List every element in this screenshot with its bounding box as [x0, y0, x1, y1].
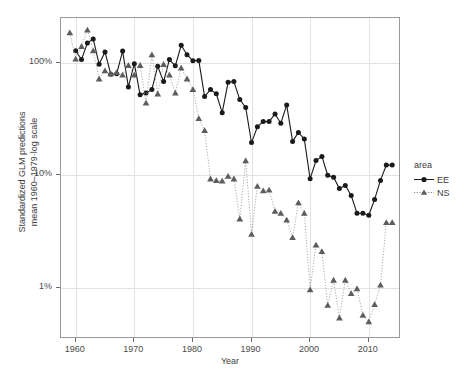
- data-point-circle: [190, 58, 195, 63]
- y-axis-title: Standardized GLM predictionsmean 1960–19…: [16, 47, 40, 297]
- y-axis-title-line2: mean 1960–1979·log scale: [29, 118, 39, 227]
- data-point-circle: [161, 79, 166, 84]
- data-point-circle: [202, 94, 207, 99]
- data-point-triangle: [119, 72, 126, 78]
- data-point-circle: [360, 211, 365, 216]
- legend-item-ee[interactable]: EE: [414, 173, 450, 186]
- data-point-triangle: [207, 176, 214, 182]
- data-point-circle: [196, 58, 201, 63]
- data-point-triangle: [301, 210, 308, 216]
- data-point-triangle: [313, 242, 320, 248]
- data-point-circle: [302, 137, 307, 142]
- legend-label-ee: EE: [437, 175, 449, 185]
- data-point-triangle: [295, 200, 302, 206]
- x-tick-mark: [192, 338, 193, 342]
- data-point-triangle: [289, 234, 296, 240]
- data-point-circle: [325, 173, 330, 178]
- data-point-triangle: [377, 282, 384, 288]
- data-point-triangle: [278, 210, 285, 216]
- data-point-triangle: [96, 76, 103, 82]
- data-point-circle: [366, 213, 371, 218]
- y-tick-mark: [56, 62, 60, 63]
- data-point-triangle: [66, 30, 73, 36]
- data-point-circle: [155, 64, 160, 69]
- data-point-triangle: [342, 277, 349, 283]
- series-line: [76, 39, 393, 215]
- data-point-triangle: [319, 248, 326, 254]
- data-point-triangle: [225, 173, 232, 179]
- data-point-triangle: [324, 302, 331, 308]
- data-point-triangle: [389, 219, 396, 225]
- data-point-triangle: [336, 315, 343, 321]
- data-point-circle: [337, 186, 342, 191]
- data-point-circle: [237, 97, 242, 102]
- data-point-triangle: [272, 208, 279, 214]
- x-tick-mark: [75, 338, 76, 342]
- data-point-triangle: [149, 52, 156, 58]
- x-tick-label: 1990: [231, 344, 271, 354]
- data-point-triangle: [190, 86, 197, 92]
- data-point-circle: [331, 175, 336, 180]
- x-tick-mark: [368, 338, 369, 342]
- data-point-circle: [319, 154, 324, 159]
- data-point-triangle: [78, 43, 85, 49]
- x-tick-mark: [309, 338, 310, 342]
- data-point-triangle: [354, 286, 361, 292]
- data-point-circle: [208, 87, 213, 92]
- series-ns: [66, 27, 395, 325]
- data-point-circle: [85, 41, 90, 46]
- data-point-triangle: [248, 231, 255, 237]
- data-point-circle: [149, 87, 154, 92]
- y-tick-mark: [56, 287, 60, 288]
- data-point-circle: [355, 211, 360, 216]
- data-point-circle: [296, 130, 301, 135]
- data-point-circle: [91, 36, 96, 41]
- data-point-circle: [243, 105, 248, 110]
- x-tick-mark: [251, 338, 252, 342]
- data-point-circle: [384, 163, 389, 168]
- data-point-circle: [314, 158, 319, 163]
- chart-figure: 1%10%100% 196019701980199020002010 Year …: [0, 0, 458, 384]
- data-point-triangle: [84, 27, 91, 33]
- data-point-triangle: [330, 277, 337, 283]
- data-point-circle: [273, 112, 278, 117]
- x-axis-title: Year: [60, 356, 400, 366]
- data-point-circle: [132, 61, 137, 66]
- x-tick-mark: [133, 338, 134, 342]
- y-axis-title-line1: Standardized GLM predictions: [17, 111, 27, 232]
- data-point-circle: [278, 121, 283, 126]
- data-point-circle: [179, 43, 184, 48]
- data-point-circle: [390, 163, 395, 168]
- data-point-circle: [349, 193, 354, 198]
- series-canvas: [61, 18, 400, 338]
- x-tick-label: 1970: [113, 344, 153, 354]
- data-point-circle: [126, 84, 131, 89]
- legend-item-ns[interactable]: NS: [414, 186, 450, 199]
- data-point-triangle: [184, 76, 191, 82]
- data-point-triangle: [154, 91, 161, 97]
- data-point-triangle: [231, 176, 238, 182]
- data-point-triangle: [283, 217, 290, 223]
- x-tick-label: 1980: [172, 344, 212, 354]
- legend-title: area: [414, 160, 450, 170]
- data-point-triangle: [137, 62, 144, 68]
- data-point-circle: [231, 79, 236, 84]
- data-point-circle: [214, 91, 219, 96]
- data-point-triangle: [236, 216, 243, 222]
- y-tick-mark: [56, 174, 60, 175]
- data-point-circle: [308, 176, 313, 181]
- data-point-triangle: [102, 68, 109, 74]
- x-tick-label: 2000: [289, 344, 329, 354]
- data-point-triangle: [172, 90, 179, 96]
- data-point-circle: [284, 103, 289, 108]
- data-point-triangle: [166, 72, 173, 78]
- plot-panel: [60, 17, 400, 338]
- data-point-triangle: [260, 187, 267, 193]
- data-layer: [61, 18, 399, 337]
- data-point-triangle: [201, 127, 208, 133]
- series-ee: [73, 36, 395, 217]
- data-point-triangle: [242, 157, 249, 163]
- data-point-circle: [255, 124, 260, 129]
- data-point-circle: [97, 62, 102, 67]
- x-tick-label: 1960: [55, 344, 95, 354]
